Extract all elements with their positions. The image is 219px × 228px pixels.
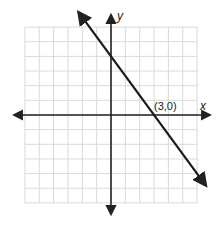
coordinate-graph: x y (3,0) [0, 0, 219, 228]
x-axis-label: x [199, 99, 207, 113]
y-axis-label: y [116, 9, 124, 23]
x-intercept-label: (3,0) [154, 100, 177, 112]
